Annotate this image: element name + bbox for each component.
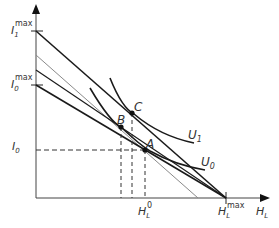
x-axis-arrow-icon xyxy=(260,194,270,202)
label-u1: U1 xyxy=(188,128,202,144)
label-i0: I0 xyxy=(12,140,20,155)
y-axis-arrow-icon xyxy=(32,4,40,14)
budget-line-tangent-b xyxy=(36,70,226,198)
label-u0: U0 xyxy=(201,155,215,171)
label-i1max-sup: max xyxy=(15,19,33,28)
label-b: B xyxy=(117,113,125,127)
label-i0max-sup: max xyxy=(15,73,33,82)
label-hlmax-sup: max xyxy=(227,201,245,210)
label-a: A xyxy=(145,137,154,151)
label-c: C xyxy=(134,100,143,114)
label-hl0-sup: 0 xyxy=(147,201,152,210)
budget-constraint-diagram: A B C U1 U0 I1 max I0 max I0 HL 0 HL max… xyxy=(0,0,279,228)
label-x-axis: HL xyxy=(256,205,268,220)
